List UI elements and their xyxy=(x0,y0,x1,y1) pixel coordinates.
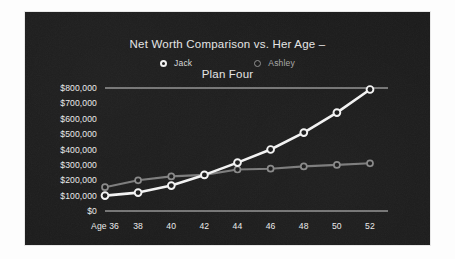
data-point-ashley xyxy=(334,162,340,168)
x-tick-label: 46 xyxy=(266,221,276,231)
y-axis-tick-labels: $800,000$700,000$600,000$500,000$400,000… xyxy=(60,83,97,216)
chart-panel: Net Worth Comparison vs. Her Age – Plan … xyxy=(25,12,430,245)
data-point-jack xyxy=(201,172,208,179)
x-axis-tick-labels: Age 363840424446485052 xyxy=(91,221,375,231)
data-point-ashley xyxy=(367,160,373,166)
y-tick-label: $500,000 xyxy=(60,129,97,139)
data-point-ashley xyxy=(268,166,274,172)
data-point-jack xyxy=(234,159,241,166)
y-tick-label: $400,000 xyxy=(60,145,97,155)
data-point-jack xyxy=(267,146,274,153)
x-tick-label: 48 xyxy=(299,221,309,231)
plot-area: $800,000$700,000$600,000$500,000$400,000… xyxy=(25,12,430,245)
data-point-jack xyxy=(102,192,109,199)
x-tick-label: Age 36 xyxy=(91,221,119,231)
x-tick-label: 44 xyxy=(233,221,243,231)
y-tick-label: $100,000 xyxy=(60,191,97,201)
y-tick-label: $300,000 xyxy=(60,160,97,170)
y-tick-label: $800,000 xyxy=(60,83,97,93)
data-point-jack xyxy=(300,129,307,136)
series-jack xyxy=(102,86,374,199)
data-point-ashley xyxy=(235,167,241,173)
x-tick-label: 42 xyxy=(199,221,209,231)
x-tick-label: 38 xyxy=(133,221,143,231)
y-tick-label: $700,000 xyxy=(60,98,97,108)
x-tick-label: 52 xyxy=(365,221,375,231)
data-point-ashley xyxy=(168,173,174,179)
x-tick-label: 40 xyxy=(166,221,176,231)
slide-page: Net Worth Comparison vs. Her Age – Plan … xyxy=(0,0,455,259)
data-point-jack xyxy=(135,189,142,196)
y-tick-label: $600,000 xyxy=(60,114,97,124)
y-tick-label: $200,000 xyxy=(60,175,97,185)
data-point-jack xyxy=(168,182,175,189)
chart-svg: $800,000$700,000$600,000$500,000$400,000… xyxy=(25,12,430,245)
data-point-jack xyxy=(367,86,374,93)
data-point-ashley xyxy=(102,184,108,190)
data-point-jack xyxy=(334,109,341,116)
data-point-ashley xyxy=(301,163,307,169)
data-point-ashley xyxy=(135,177,141,183)
y-tick-label: $0 xyxy=(87,206,97,216)
x-tick-label: 50 xyxy=(332,221,342,231)
